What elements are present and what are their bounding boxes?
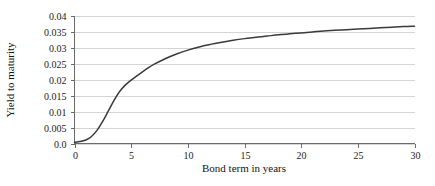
x-tick-label: 0 [73,150,78,161]
y-tick-label: 0.03 [49,43,67,54]
x-tick-label: 20 [297,150,307,161]
x-tick-label: 10 [184,150,194,161]
y-tick-label: 0.01 [49,107,67,118]
y-tick-label: 0.02 [49,75,67,86]
y-tick-label: 0.04 [49,11,67,22]
x-axis-title: Bond term in years [202,162,286,174]
x-tick-label: 30 [411,150,421,161]
y-axis-title: Yield to maturity [4,42,16,118]
chart-canvas: 0.00.0050.010.0150.020.0250.030.0350.04 … [0,0,435,186]
y-tick-label: 0.0 [54,139,67,150]
y-tick-label: 0.015 [44,91,67,102]
y-tick-label: 0.035 [44,27,67,38]
x-tick-label: 25 [354,150,364,161]
x-tick-label: 5 [129,150,134,161]
x-tick-label: 15 [241,150,251,161]
yield-curve-chart: 0.00.0050.010.0150.020.0250.030.0350.04 … [0,0,435,186]
y-tick-label: 0.005 [44,123,67,134]
y-tick-label: 0.025 [44,59,67,70]
